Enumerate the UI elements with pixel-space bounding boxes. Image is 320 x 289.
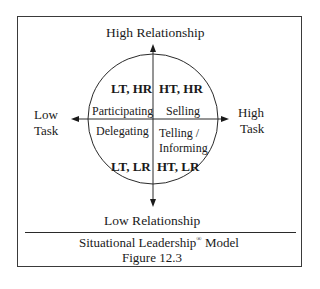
style-telling-line1: Telling / [159, 126, 199, 140]
style-telling-line2: Informing [159, 141, 208, 155]
high-task-label-line1: High [238, 106, 264, 120]
arrow-right-icon [221, 116, 229, 122]
arrow-down-icon [150, 199, 156, 207]
high-relationship-label: High Relationship [106, 26, 205, 40]
caption-title-text: Situational Leadership [79, 235, 196, 250]
style-participating: Participating [92, 104, 153, 118]
caption-title: Situational Leadership® Model [79, 236, 239, 250]
quadrant-code-ht-lr: HT, LR [157, 160, 199, 174]
arrow-left-icon [71, 116, 79, 122]
style-delegating: Delegating [96, 124, 149, 138]
caption-title-suffix: Model [202, 235, 239, 250]
quadrant-code-lt-lr: LT, LR [111, 160, 151, 174]
low-task-label-line1: Low [34, 108, 58, 122]
caption-divider [25, 232, 296, 233]
style-selling: Selling [166, 104, 200, 118]
figure-number: Figure 12.3 [122, 251, 182, 265]
low-task-label-line2: Task [34, 124, 58, 138]
arrow-up-icon [150, 44, 156, 52]
quadrant-code-ht-hr: HT, HR [159, 82, 203, 96]
high-task-label-line2: Task [240, 122, 264, 136]
low-relationship-label: Low Relationship [104, 214, 200, 228]
quadrant-code-lt-hr: LT, HR [111, 82, 152, 96]
